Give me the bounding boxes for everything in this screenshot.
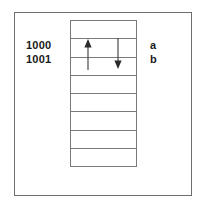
memory-cell-row [71,39,136,57]
memory-cell-row [71,149,136,166]
memory-cell-row [71,94,136,112]
memory-cell-row [71,58,136,76]
address-label-1000: 1000 [26,39,51,51]
memory-cell-row [71,131,136,149]
variable-label-b: b [150,53,157,65]
memory-cell-row [71,76,136,94]
variable-label-a: a [150,39,156,51]
address-label-1001: 1001 [26,53,51,65]
memory-cell-row [71,21,136,39]
memory-cell-row [71,112,136,130]
memory-diagram-figure: 1000 1001 a b [0,0,201,208]
memory-cell-table [70,20,137,167]
